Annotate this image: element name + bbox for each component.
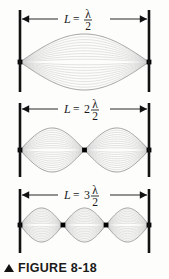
caption-label: FIGURE 8-18: [18, 261, 97, 275]
dimension-arrowhead: [22, 105, 29, 113]
dimension-arrowhead: [22, 191, 29, 199]
wave-phase-curve: [20, 48, 149, 62]
svg-text:3: 3: [84, 188, 90, 202]
wave-node-dot: [82, 148, 87, 153]
wave-node-dot: [104, 223, 109, 228]
wave-phase-curve: [20, 211, 149, 238]
svg-text:λ: λ: [92, 184, 98, 196]
svg-text:2: 2: [85, 20, 91, 32]
wave-phase-curve: [20, 222, 149, 229]
svg-text:L: L: [63, 102, 71, 116]
wave-phase-curve: [20, 222, 149, 229]
length-label: L=λ2: [63, 8, 92, 32]
wave-phase-curve: [20, 215, 149, 235]
svg-text:λ: λ: [85, 8, 91, 20]
wave-phase-curve: [20, 223, 149, 226]
svg-text:=: =: [73, 189, 80, 201]
length-label: L=2λ2: [63, 98, 99, 122]
svg-text:L: L: [63, 12, 71, 26]
wave-phase-curve: [20, 215, 149, 235]
standing-wave-panel-first-harmonic: L=λ2: [0, 0, 169, 95]
svg-text:2: 2: [92, 110, 98, 122]
figure-standing-waves: L=λ2 L=2λ2 L=3λ2 FIGURE 8-18: [0, 0, 169, 279]
wave-phase-curve: [20, 217, 149, 234]
caption-triangle-icon: [4, 264, 14, 272]
wave-phase-curve: [20, 211, 149, 238]
svg-text:L: L: [63, 188, 71, 202]
wave-phase-curve: [20, 223, 149, 226]
svg-text:2: 2: [84, 102, 90, 116]
svg-text:2: 2: [92, 196, 98, 208]
svg-text:λ: λ: [92, 98, 98, 110]
svg-text:=: =: [73, 103, 80, 115]
svg-text:=: =: [73, 13, 80, 25]
dimension-arrowhead: [140, 105, 147, 113]
wave-node-dot: [61, 223, 66, 228]
standing-wave-diagram: L=3λ2: [0, 183, 169, 258]
wave-phase-curve: [20, 210, 149, 241]
dimension-arrowhead: [140, 191, 147, 199]
standing-wave-diagram: L=λ2: [0, 0, 169, 95]
wave-phase-curve: [20, 62, 149, 76]
dimension-arrowhead: [140, 15, 147, 23]
wave-phase-curve: [20, 210, 149, 241]
standing-wave-diagram: L=2λ2: [0, 95, 169, 183]
length-label: L=3λ2: [63, 184, 99, 208]
standing-wave-panel-second-harmonic: L=2λ2: [0, 95, 169, 183]
standing-wave-panel-third-harmonic: L=3λ2: [0, 183, 169, 258]
dimension-arrowhead: [22, 15, 29, 23]
wave-phase-curve: [20, 217, 149, 234]
figure-caption: FIGURE 8-18: [4, 261, 97, 275]
